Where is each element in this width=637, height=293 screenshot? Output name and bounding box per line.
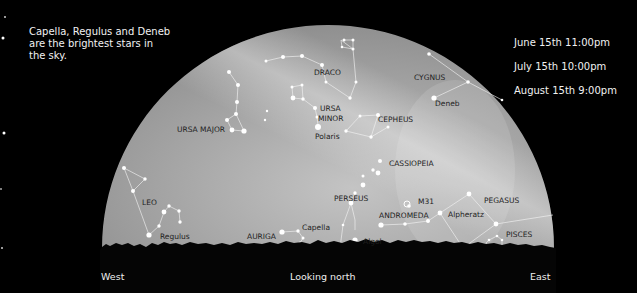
label-deneb: Deneb: [435, 99, 460, 108]
label-cygnus: CYGNUS: [414, 73, 446, 82]
label-cassiopeia: CASSIOPEIA: [389, 159, 434, 168]
caption-left: Capella, Regulus and Deneb are the brigh…: [29, 26, 170, 62]
time-june: June 15th 11:00pm: [514, 37, 617, 49]
label-draco: DRACO: [314, 68, 341, 77]
horizon-silhouette: [100, 239, 556, 293]
direction-west: West: [101, 271, 124, 282]
label-auriga: AURIGA: [247, 232, 277, 241]
label-regulus: Regulus: [160, 232, 190, 241]
label-algol: Algol: [363, 237, 382, 246]
label-ursa: URSA: [320, 104, 342, 113]
label-pisces: PISCES: [506, 230, 532, 239]
label-minor: MINOR: [318, 114, 343, 123]
background-stars: [0, 16, 6, 249]
label-perseus: PERSEUS: [334, 194, 368, 203]
caption-right: June 15th 11:00pm July 15th 10:00pm Augu…: [514, 25, 617, 109]
label-cepheus: CEPHEUS: [378, 115, 413, 124]
label-pegasus: PEGASUS: [484, 196, 519, 205]
label-andromeda: ANDROMEDA: [379, 211, 429, 220]
label-polaris: Polaris: [315, 132, 340, 141]
direction-east: East: [530, 271, 551, 282]
label-m31: M31: [418, 197, 434, 206]
label-ursa-major: URSA MAJOR: [177, 125, 225, 134]
direction-center: Looking north: [290, 271, 355, 282]
time-july: July 15th 10:00pm: [514, 61, 617, 73]
label-capella: Capella: [302, 223, 330, 232]
time-august: August 15th 9:00pm: [514, 85, 617, 97]
label-alpheratz: Alpheratz: [448, 210, 484, 219]
label-leo: LEO: [142, 198, 157, 207]
